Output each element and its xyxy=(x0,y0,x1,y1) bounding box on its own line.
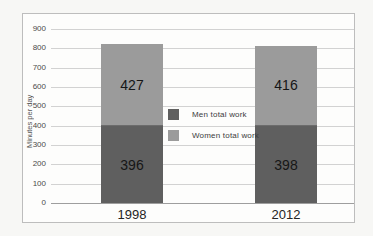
chart-figure: Minutes per day 010020030040050060070080… xyxy=(0,0,373,236)
y-tick-label-500: 500 xyxy=(23,102,46,110)
y-tick-label-700: 700 xyxy=(23,64,46,72)
bar-value-label: 396 xyxy=(120,157,143,173)
x-axis-label-2012: 2012 xyxy=(255,207,317,222)
legend: Men total workWomen total work xyxy=(168,108,259,150)
y-tick-label-0: 0 xyxy=(23,199,46,207)
bar-segment-women-1998: 427 xyxy=(101,44,163,127)
legend-label-men: Men total work xyxy=(192,110,247,119)
legend-swatch-men-icon xyxy=(168,109,179,120)
y-tick-label-100: 100 xyxy=(23,180,46,188)
bar-segment-men-1998: 396 xyxy=(101,126,163,203)
legend-label-women: Women total work xyxy=(192,131,259,140)
bar-value-label: 398 xyxy=(274,157,297,173)
legend-item-women: Women total work xyxy=(168,129,259,141)
bar-segment-women-2012: 416 xyxy=(255,46,317,126)
bar-value-label: 427 xyxy=(120,77,143,93)
x-axis-label-1998: 1998 xyxy=(101,207,163,222)
y-tick-label-600: 600 xyxy=(23,83,46,91)
gridline-900 xyxy=(51,29,354,30)
chart-area: Minutes per day 010020030040050060070080… xyxy=(22,13,355,223)
y-tick-label-900: 900 xyxy=(23,25,46,33)
y-tick-label-300: 300 xyxy=(23,141,46,149)
legend-swatch-women-icon xyxy=(168,130,179,141)
gridline-0 xyxy=(51,203,354,204)
y-tick-label-400: 400 xyxy=(23,122,46,130)
y-tick-label-200: 200 xyxy=(23,160,46,168)
legend-item-men: Men total work xyxy=(168,108,259,120)
bar-value-label: 416 xyxy=(274,77,297,93)
y-tick-label-800: 800 xyxy=(23,44,46,52)
bar-segment-men-2012: 398 xyxy=(255,126,317,203)
